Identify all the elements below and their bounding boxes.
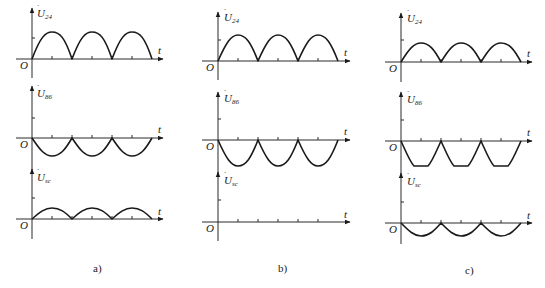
plot-c-usc: Usc · t O <box>385 169 532 244</box>
origin-label: O <box>206 222 214 234</box>
svg-text:·: · <box>407 87 409 96</box>
panel-caption: c) <box>465 264 474 277</box>
t-label: t <box>158 205 162 217</box>
svg-text:·: · <box>224 5 226 14</box>
y-label: U86 <box>407 93 422 107</box>
panel-caption: b) <box>278 262 288 275</box>
svg-text:·: · <box>224 168 226 177</box>
origin-label: O <box>20 138 28 150</box>
svg-text:·: · <box>37 81 39 90</box>
y-label: U86 <box>224 92 239 106</box>
svg-text:·: · <box>407 169 409 178</box>
svg-text:·: · <box>37 165 39 174</box>
plot-b-usc: Usc · t O <box>202 168 350 241</box>
t-label: t <box>344 208 348 220</box>
svg-text:·: · <box>37 1 39 10</box>
y-label: Usc <box>224 174 239 188</box>
panel-caption: a) <box>93 262 102 275</box>
y-label: Usc <box>407 175 422 189</box>
origin-label: O <box>389 223 397 235</box>
panel-b: U24 · t O U86 · t O Usc · t <box>202 5 350 275</box>
origin-label: O <box>206 61 214 73</box>
t-label: t <box>158 44 162 56</box>
y-label: U24 <box>224 11 239 25</box>
y-label: U86 <box>37 87 52 101</box>
svg-text:·: · <box>224 86 226 95</box>
waveform-usc <box>401 223 521 236</box>
waveform-u86 <box>218 140 338 166</box>
plot-c-u86: U86 · t O <box>385 87 532 176</box>
y-label: U24 <box>37 7 52 21</box>
plot-b-u86: U86 · t O <box>202 86 350 175</box>
y-label: U24 <box>407 12 422 26</box>
waveform-u86 <box>32 138 152 156</box>
panel-a: U24 · t O U86 · t O Usc <box>16 1 163 275</box>
origin-label: O <box>389 141 397 153</box>
t-label: t <box>158 123 162 135</box>
plot-b-u24: U24 · t O <box>202 5 350 80</box>
plot-a-u24: U24 · t O <box>16 1 163 78</box>
waveform-u24 <box>218 35 338 61</box>
plot-c-u24: U24 · t O <box>385 6 532 82</box>
waveform-u24 <box>32 32 152 59</box>
plot-a-u86: U86 · t O <box>16 81 163 170</box>
svg-text:·: · <box>407 6 409 15</box>
origin-label: O <box>389 62 397 74</box>
waveform-figure: U24 · t O U86 · t O Usc <box>0 0 545 288</box>
t-label: t <box>527 47 531 59</box>
origin-label: O <box>20 219 28 231</box>
panel-c: U24 · t O U86 · t O Usc · <box>385 6 532 277</box>
y-label: Usc <box>37 171 52 185</box>
t-label: t <box>527 126 531 138</box>
t-label: t <box>344 125 348 137</box>
waveform-u86 <box>401 141 521 166</box>
origin-label: O <box>20 59 28 71</box>
t-label: t <box>344 46 348 58</box>
origin-label: O <box>206 140 214 152</box>
t-label: t <box>527 209 531 221</box>
plot-a-usc: Usc · t O <box>16 165 163 239</box>
